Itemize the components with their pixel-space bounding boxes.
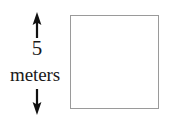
geometry-figure: 5 meters <box>0 0 173 121</box>
square-shape <box>70 15 159 109</box>
dimension-unit-label: meters <box>0 63 70 87</box>
arrow-down-icon <box>26 89 48 115</box>
dimension-annotation: 5 meters <box>0 0 70 121</box>
dimension-value-label: 5 <box>0 35 74 61</box>
